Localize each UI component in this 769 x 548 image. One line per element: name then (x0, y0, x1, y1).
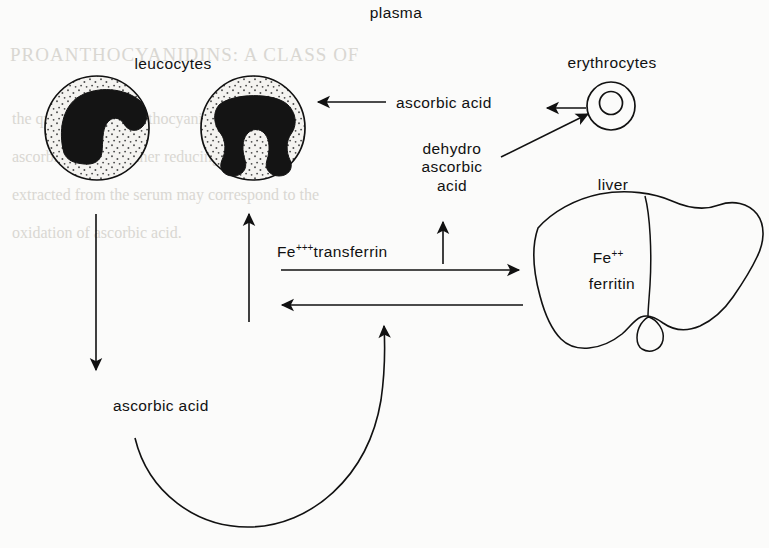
transferrin-word: transferrin (313, 243, 387, 260)
leucocytes-label: leucocytes (134, 55, 211, 73)
leucocyte-cell-2 (201, 76, 305, 180)
leucocyte-cell-1 (45, 76, 149, 180)
dehydro-line-1: dehydro (423, 140, 482, 157)
diagram-vector-layer (0, 0, 769, 548)
arrow-ascorbic-curve (135, 326, 385, 527)
transferrin-charge: +++ (296, 242, 314, 253)
figure-canvas: PROANTHOCYANIDINS: A CLASS OF the quanti… (0, 0, 769, 548)
liver-label: liver (598, 176, 628, 194)
liver-iron-label: Fe++ (593, 248, 624, 267)
dehydro-line-2: ascorbic (422, 158, 483, 175)
erythrocytes-label: erythrocytes (567, 54, 656, 72)
liver-iron-charge: ++ (612, 248, 624, 259)
transferrin-label: Fe+++transferrin (277, 242, 388, 261)
dehydro-line-3: acid (437, 177, 467, 194)
liver-organ (534, 192, 763, 351)
ascorbic-acid-plasma-label: ascorbic acid (396, 94, 492, 112)
dehydro-ascorbic-acid-label: dehydro ascorbic acid (387, 140, 517, 195)
ferritin-label: ferritin (589, 275, 635, 293)
plasma-label: plasma (370, 4, 422, 22)
transferrin-fe-symbol: Fe (277, 243, 296, 260)
erythrocyte-cell (587, 82, 635, 130)
liver-fe-symbol: Fe (593, 249, 612, 266)
ascorbic-acid-bottom-label: ascorbic acid (113, 397, 209, 415)
